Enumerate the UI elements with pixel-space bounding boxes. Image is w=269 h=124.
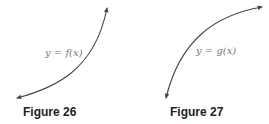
figure-27-caption: Figure 27: [170, 106, 223, 118]
curve-label-f: y = f(x): [45, 48, 83, 58]
figure-26-caption: Figure 26: [23, 106, 76, 118]
curve-label-g: y = g(x): [196, 46, 236, 56]
